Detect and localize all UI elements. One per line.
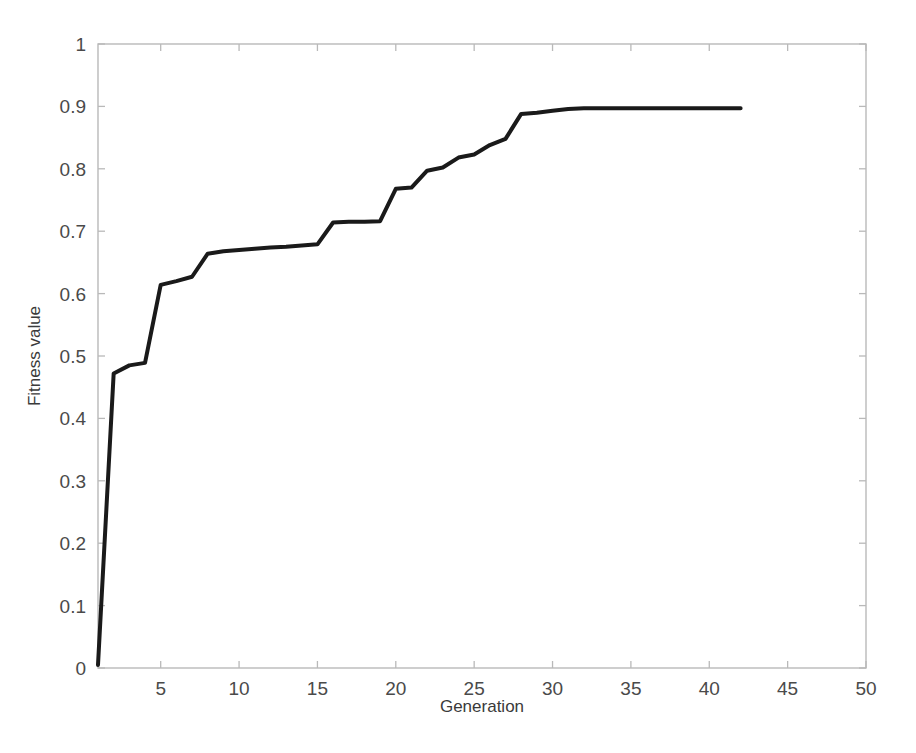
y-tick-label: 0.1 [60, 596, 86, 617]
y-tick-label: 0.3 [60, 471, 86, 492]
y-tick-label: 0.5 [60, 346, 86, 367]
x-axis-tick-labels: 5101520253035404550 [155, 678, 876, 699]
y-axis-tick-labels: 00.10.20.30.40.50.60.70.80.91 [60, 34, 87, 679]
figure-container: 5101520253035404550 00.10.20.30.40.50.60… [0, 0, 916, 753]
x-tick-label: 35 [620, 678, 641, 699]
y-tick-label: 0.8 [60, 159, 86, 180]
x-axis-title: Generation [440, 697, 524, 716]
x-tick-label: 45 [777, 678, 798, 699]
y-axis-ticks [98, 44, 866, 668]
y-tick-label: 0.6 [60, 284, 86, 305]
fitness-vs-generation-chart: 5101520253035404550 00.10.20.30.40.50.60… [0, 0, 916, 753]
x-tick-label: 25 [464, 678, 485, 699]
y-tick-label: 0 [75, 658, 86, 679]
x-tick-label: 30 [542, 678, 563, 699]
y-axis-title: Fitness value [25, 306, 44, 406]
x-tick-label: 50 [855, 678, 876, 699]
x-tick-label: 40 [699, 678, 720, 699]
x-axis-ticks [161, 44, 866, 668]
x-tick-label: 5 [155, 678, 166, 699]
y-tick-label: 0.9 [60, 96, 86, 117]
y-tick-label: 0.2 [60, 533, 86, 554]
y-tick-label: 0.7 [60, 221, 86, 242]
y-tick-label: 0.4 [60, 408, 87, 429]
x-tick-label: 15 [307, 678, 328, 699]
y-tick-label: 1 [75, 34, 86, 55]
plot-frame [98, 44, 866, 668]
x-tick-label: 20 [385, 678, 406, 699]
data-series-group [98, 108, 741, 665]
x-tick-label: 10 [228, 678, 249, 699]
plot-axes [98, 44, 866, 668]
fitness-curve [98, 108, 741, 665]
